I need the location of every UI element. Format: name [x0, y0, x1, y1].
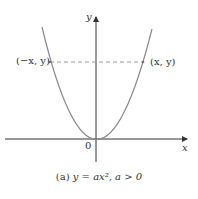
y-axis-label: y: [86, 11, 92, 22]
x-axis-label: x: [182, 142, 188, 153]
caption-equation: y = ax², a > 0: [73, 171, 142, 182]
point-right: [142, 61, 145, 64]
origin-label: 0: [85, 140, 91, 151]
point-right-label: (x, y): [150, 56, 175, 67]
parabola-figure: y x 0 (−x, y) (x, y) (a) y = ax², a > 0: [0, 0, 198, 199]
parabola-curve: [42, 27, 152, 140]
caption-tag: (a): [56, 171, 70, 182]
point-left-label: (−x, y): [16, 55, 50, 66]
figure-graphic: [0, 0, 198, 199]
figure-caption: (a) y = ax², a > 0: [0, 171, 198, 182]
